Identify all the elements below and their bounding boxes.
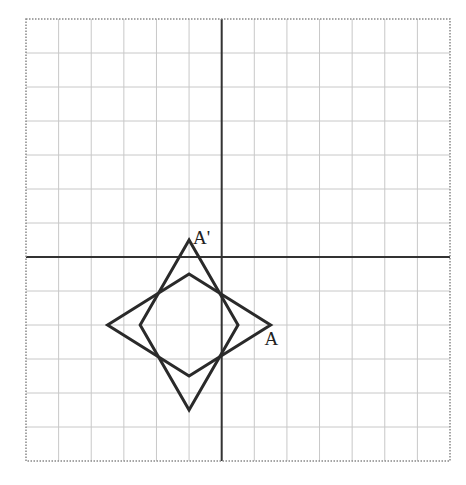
point-a-label: A: [265, 329, 279, 348]
axes: [26, 19, 450, 461]
grid-border: [26, 19, 450, 461]
point-a-prime-label: A': [193, 228, 210, 247]
grid-lines: [26, 19, 450, 461]
coordinate-grid-figure: [0, 0, 466, 485]
